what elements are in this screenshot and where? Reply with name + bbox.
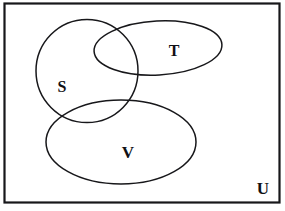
set-s-ellipse[interactable] — [36, 20, 138, 123]
universe-label: U — [257, 179, 269, 198]
venn-diagram-canvas: S T V U — [0, 0, 285, 211]
universe-rectangle — [5, 4, 280, 203]
set-v-label: V — [122, 143, 135, 162]
venn-diagram-figure: S T V U — [0, 0, 285, 211]
set-v-ellipse[interactable] — [46, 100, 196, 184]
set-s-label: S — [58, 78, 67, 95]
set-t-label: T — [169, 42, 180, 59]
